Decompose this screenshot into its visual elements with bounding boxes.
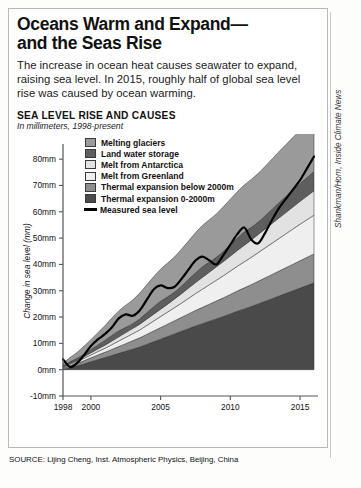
y-tick-label: 20mm — [33, 312, 56, 322]
legend-line-marker — [84, 208, 97, 211]
legend-swatch — [85, 194, 96, 203]
chart-subtitle: In millimeters, 1998-present — [17, 121, 321, 131]
y-tick-label: 0mm — [37, 364, 56, 374]
legend-item: Measured sea level — [85, 205, 234, 215]
intro-paragraph: The increase in ocean heat causes seawat… — [17, 58, 321, 101]
legend-item: Thermal expansion 0-2000m — [85, 194, 234, 204]
y-tick-label: 30mm — [33, 285, 56, 295]
y-axis-label: Change in sea level (mm) — [22, 223, 32, 319]
page-title: Oceans Warm and Expand— and the Seas Ris… — [17, 15, 321, 53]
legend-swatch — [85, 183, 96, 192]
card-content: Oceans Warm and Expand— and the Seas Ris… — [17, 15, 321, 434]
chart-title: SEA LEVEL RISE AND CAUSES — [17, 110, 321, 121]
headline-line-2: and the Seas Rise — [17, 33, 162, 53]
y-tick-label: 40mm — [33, 259, 56, 269]
legend-item: Thermal expansion below 2000m — [85, 182, 234, 192]
credit-text: Shankman/Horn, Inside Climate News — [334, 90, 343, 228]
y-tick-label: 60mm — [33, 206, 56, 216]
legend-label: Land water storage — [101, 149, 179, 159]
chart-plot-area: -10mm0mm10mm20mm30mm40mm50mm60mm70mm80mm… — [17, 134, 321, 434]
legend-item: Land water storage — [85, 149, 234, 159]
x-tick-label: 2010 — [221, 402, 240, 412]
legend-label: Thermal expansion 0-2000m — [101, 194, 215, 204]
legend-label: Melt from Greenland — [101, 171, 184, 181]
x-tick-label: 2000 — [82, 402, 101, 412]
legend-swatch — [85, 138, 96, 147]
chart-legend: Melting glaciersLand water storageMelt f… — [85, 138, 234, 216]
infographic-card: Oceans Warm and Expand— and the Seas Ris… — [8, 8, 328, 448]
legend-swatch — [85, 149, 96, 158]
legend-item: Melt from Antarctica — [85, 160, 234, 170]
legend-label: Thermal expansion below 2000m — [101, 182, 234, 192]
y-tick-label: 50mm — [33, 233, 56, 243]
legend-item: Melt from Greenland — [85, 171, 234, 181]
infographic-page: Oceans Warm and Expand— and the Seas Ris… — [0, 0, 361, 488]
credit-divider — [330, 12, 331, 458]
headline-line-1: Oceans Warm and Expand— — [17, 14, 248, 34]
legend-label: Measured sea level — [100, 205, 178, 215]
legend-item: Melting glaciers — [85, 138, 234, 148]
legend-swatch — [85, 172, 96, 181]
x-tick-label: 2005 — [151, 402, 170, 412]
y-tick-label: 70mm — [33, 180, 56, 190]
x-tick-label: 2015 — [291, 402, 310, 412]
legend-label: Melt from Antarctica — [101, 160, 183, 170]
y-tick-label: 80mm — [33, 154, 56, 164]
legend-label: Melting glaciers — [101, 138, 165, 148]
x-tick-label: 1998 — [54, 402, 73, 412]
source-note: SOURCE: Lijing Cheng, Inst. Atmospheric … — [9, 455, 238, 464]
legend-swatch — [85, 160, 96, 169]
y-tick-label: -10mm — [30, 391, 56, 401]
y-tick-label: 10mm — [33, 338, 56, 348]
